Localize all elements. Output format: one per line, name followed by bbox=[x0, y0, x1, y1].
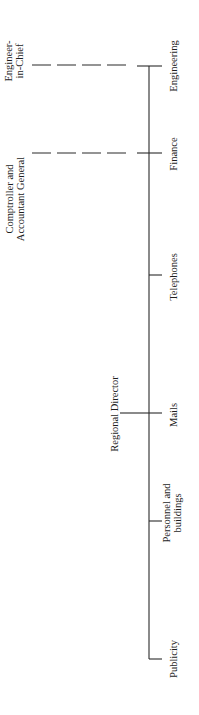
engineering-label: Engineering bbox=[168, 40, 179, 92]
finance-label-line-1: Finance bbox=[168, 137, 179, 171]
publicity-label-line-1: Publicity bbox=[168, 639, 179, 678]
publicity-label: Publicity bbox=[168, 639, 179, 678]
comptroller-and-accountant-general-label: Comptroller andAccountant General bbox=[4, 157, 26, 241]
comptroller-and-accountant-general-label-line-1: Comptroller and bbox=[4, 164, 15, 234]
department-publicity: Publicity bbox=[149, 639, 179, 678]
department-mails: Mails bbox=[149, 403, 179, 427]
department-engineering: Engineering bbox=[137, 40, 179, 92]
mails-label-line-1: Mails bbox=[168, 403, 179, 427]
mails-label: Mails bbox=[168, 403, 179, 427]
telephones-label: Telephones bbox=[168, 253, 179, 301]
personnel-and-buildings-label-line-1: Personnel and bbox=[161, 483, 172, 543]
department-finance: Finance bbox=[137, 137, 179, 171]
authority-engineer-in-chief: Engineer-in-Chief bbox=[3, 40, 128, 82]
regional-director-node: Regional Director bbox=[109, 376, 149, 452]
personnel-and-buildings-label: Personnel andbuildings bbox=[161, 483, 183, 543]
finance-label: Finance bbox=[168, 137, 179, 171]
engineer-in-chief-label-line-1: Engineer- bbox=[3, 40, 14, 82]
engineer-in-chief-label: Engineer-in-Chief bbox=[3, 40, 25, 82]
department-telephones: Telephones bbox=[149, 253, 179, 301]
department-personnel-and-buildings: Personnel andbuildings bbox=[149, 483, 183, 543]
personnel-and-buildings-label-line-2: buildings bbox=[172, 493, 183, 532]
organization-chart: Regional Director EngineeringFinanceTele… bbox=[0, 0, 199, 715]
engineer-in-chief-label-line-2: in-Chief bbox=[14, 43, 25, 78]
external-authority-nodes: Engineer-in-ChiefComptroller andAccounta… bbox=[3, 40, 128, 241]
engineering-label-line-1: Engineering bbox=[168, 40, 179, 92]
comptroller-and-accountant-general-label-line-2: Accountant General bbox=[15, 157, 26, 241]
regional-director-label-line-1: Regional Director bbox=[109, 376, 120, 452]
department-nodes: EngineeringFinanceTelephonesMailsPersonn… bbox=[137, 40, 183, 678]
telephones-label-line-1: Telephones bbox=[168, 253, 179, 301]
authority-comptroller-and-accountant-general: Comptroller andAccountant General bbox=[4, 153, 128, 241]
regional-director-label: Regional Director bbox=[109, 376, 120, 452]
